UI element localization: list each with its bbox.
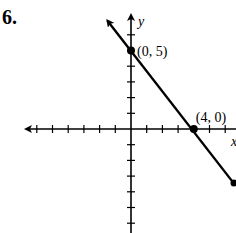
x-axis-label: x	[230, 134, 236, 149]
point-label: (4, 0)	[196, 110, 227, 126]
graph-line	[107, 21, 233, 183]
y-axis-label: y	[136, 14, 145, 29]
point-marker	[190, 125, 198, 133]
coordinate-graph: (0, 5)(4, 0) y x	[0, 0, 236, 233]
point-marker	[127, 47, 135, 55]
point-label: (0, 5)	[137, 44, 168, 60]
plot-area: (0, 5)(4, 0)	[107, 21, 236, 187]
